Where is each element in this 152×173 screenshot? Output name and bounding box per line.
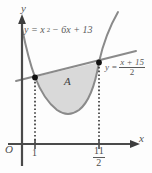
curve-equation-label: y = x2 − 6x + 13 [24,25,92,35]
region-label: A [64,76,71,87]
curve-equation-exponent: 2 [47,27,50,34]
shaded-region-a [35,62,99,114]
x-tick-label-2: 11 2 [93,146,105,168]
x-tick-label-1: 1 [32,148,37,158]
line-equation-denominator: 2 [119,68,145,77]
intersection-point-left [32,75,38,81]
origin-label: O [5,144,13,155]
x-axis-label: x [139,133,144,144]
x-tick-label-2-numerator: 11 [93,146,105,158]
x-tick-label-2-denominator: 2 [93,158,105,169]
curve-equation-prefix: y = x [24,25,45,35]
line-equation-label: y = x + 15 2 [105,58,145,78]
line-equation-lhs: y = [105,63,117,72]
line-equation-fraction: x + 15 2 [119,58,145,78]
intersection-point-right [96,60,102,66]
x-tick-label-2-fraction: 11 2 [93,146,105,168]
curve-equation-suffix: − 6x + 13 [52,25,92,35]
y-axis-arrowhead [18,14,26,24]
graph-figure: y x O y = x2 − 6x + 13 y = x + 15 2 A 1 … [0,0,152,173]
y-axis-label: y [21,3,26,14]
